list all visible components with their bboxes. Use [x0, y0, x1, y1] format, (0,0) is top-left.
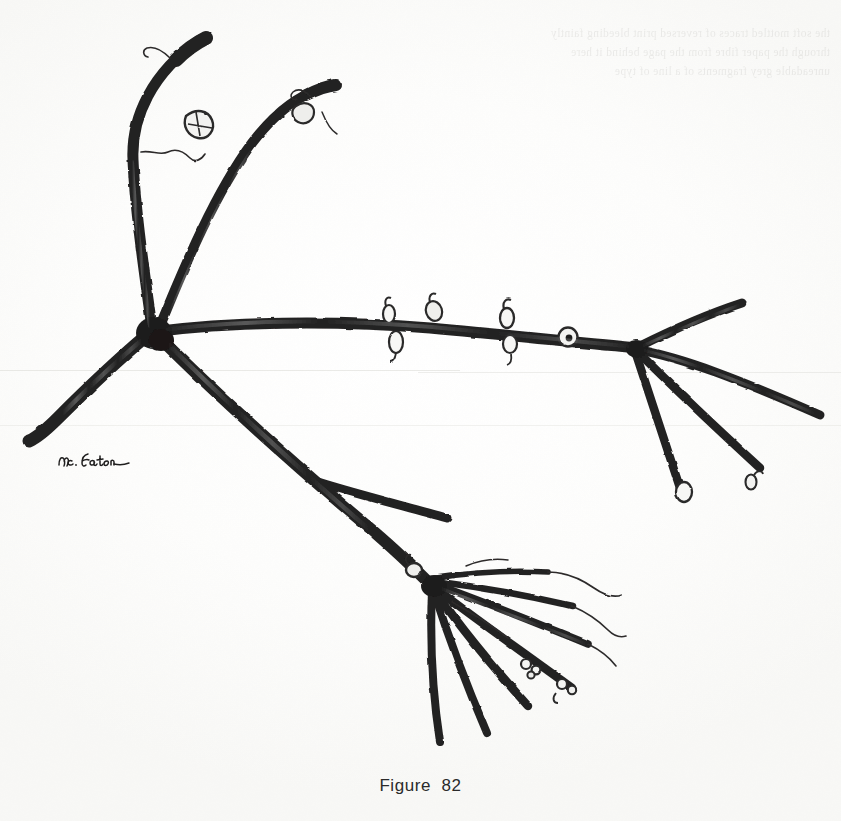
upper-left-shoot-tip [176, 38, 206, 60]
tendril-whorl-d [466, 559, 508, 566]
bud-below-stem-2 [503, 335, 517, 365]
bud-right-fan-outer [746, 471, 764, 489]
bud-right-fan-lower [676, 482, 692, 502]
whorl-branch-2 [434, 592, 487, 733]
bud-lower-whorl-2 [554, 679, 577, 703]
tendril-whorl-c [588, 644, 616, 666]
figure-caption: Figure 82 [0, 776, 841, 796]
tendril-whorl-a [548, 572, 622, 596]
bud-above-stem-2 [423, 293, 444, 323]
stem-skeleton [29, 38, 640, 587]
lower-whorl [431, 571, 588, 742]
tendril-upper-left-b [141, 150, 205, 160]
tendril-upper-left-a [144, 47, 170, 58]
upper-middle-shoot-tip [306, 85, 336, 95]
buds-right-fan [676, 471, 763, 502]
tendrils [141, 47, 626, 666]
scale-upper-left [185, 111, 213, 138]
lower-whorl-node [421, 575, 447, 597]
whorl-branch-7 [436, 571, 548, 578]
tendril-upper-middle-b [322, 112, 337, 134]
botanical-illustration [0, 0, 841, 821]
ringed-node [559, 328, 578, 347]
right-fan [636, 303, 820, 494]
artist-signature [56, 449, 136, 475]
tendril-whorl-b [572, 606, 626, 637]
stem-highlights [62, 150, 816, 644]
scale-upper-middle [292, 103, 314, 123]
bud-above-stem-1 [383, 297, 395, 323]
bud-above-stem-3 [500, 299, 514, 328]
shoot-tip-scales [185, 103, 314, 138]
bud-below-stem-1 [389, 331, 403, 362]
figure-page: the soft mottled traces of reversed prin… [0, 0, 841, 821]
